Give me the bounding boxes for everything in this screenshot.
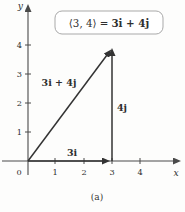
x-tick-label-2: 2 (81, 167, 86, 177)
x-axis-label: x (173, 167, 179, 178)
figure-caption: (a) (91, 192, 103, 202)
origin-label: 0 (16, 167, 21, 177)
y-tick-label-1: 1 (17, 127, 22, 137)
x-component-label: 3i (67, 147, 78, 158)
formula-rhs: 3i + 4j (111, 17, 149, 29)
vectors: 3i + 4j 3i 4j (28, 55, 127, 161)
y-component-label: 4j (117, 102, 127, 113)
resultant-vector-label: 3i + 4j (42, 77, 77, 88)
y-tick-label-3: 3 (17, 69, 22, 79)
resultant-vector-arrow (28, 55, 107, 161)
formula-lhs: ⟨3, 4⟩ = (69, 17, 109, 29)
y-tick-label-2: 2 (17, 98, 22, 108)
y-axis-label: y (17, 0, 24, 11)
x-tick-label-1: 1 (52, 167, 57, 177)
formula-box: ⟨3, 4⟩ =3i + 4j (55, 11, 163, 34)
x-tick-label-4: 4 (137, 167, 142, 177)
vector-diagram-canvas: 1 2 3 4 1 2 3 4 0 x y 3i + 4j 3i 4j ⟨3, (0, 0, 185, 212)
vector-diagram-figure: 1 2 3 4 1 2 3 4 0 x y 3i + 4j 3i 4j ⟨3, (0, 0, 185, 212)
y-tick-label-4: 4 (17, 40, 22, 50)
x-tick-label-3: 3 (109, 167, 114, 177)
